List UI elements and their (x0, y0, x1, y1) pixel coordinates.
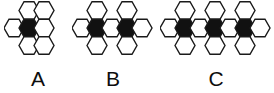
hex-cell-white (34, 2, 54, 20)
hex-cell-white (117, 2, 137, 20)
figure-b: B (72, 0, 154, 93)
hexagon-figure-row: A B C (0, 0, 274, 93)
hex-cell-white (117, 37, 137, 55)
figure-c-label: C (160, 67, 272, 91)
figure-a-hexagons (4, 0, 72, 64)
figure-c-hexagons (160, 0, 272, 64)
hex-cell-white (87, 37, 107, 55)
hex-cell-white (175, 2, 195, 20)
figure-a-label: A (4, 67, 72, 91)
hex-cell-white (205, 2, 225, 20)
figure-b-label: B (72, 67, 154, 91)
hex-cell-white (34, 19, 54, 37)
hex-cell-white (250, 19, 270, 37)
figure-c: C (160, 0, 272, 93)
hex-cell-white (205, 37, 225, 55)
hex-cell-white (34, 37, 54, 55)
hex-cell-white (235, 37, 255, 55)
hex-cell-white (87, 2, 107, 20)
figure-a: A (4, 0, 72, 93)
hex-cell-white (175, 37, 195, 55)
hex-cell-white (235, 2, 255, 20)
figure-b-hexagons (72, 0, 154, 64)
hex-cell-white (132, 19, 152, 37)
